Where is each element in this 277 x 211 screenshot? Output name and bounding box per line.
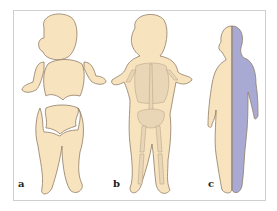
panel-c-blue-half xyxy=(232,26,258,193)
panel-a-left-arm xyxy=(22,62,44,92)
panel-a-right-arm xyxy=(84,62,106,84)
panel-a-figure xyxy=(22,14,106,194)
anatomy-illustration xyxy=(0,0,277,211)
panel-a-thorax xyxy=(44,60,85,101)
panel-c-figure xyxy=(208,26,258,193)
panel-label-b: b xyxy=(113,178,120,189)
panel-c-skin-half xyxy=(208,26,232,193)
panel-a-head xyxy=(39,14,77,60)
panel-label-a: a xyxy=(18,178,24,189)
panel-label-c: c xyxy=(208,178,214,189)
spine xyxy=(149,64,153,112)
panel-b-figure xyxy=(112,14,192,193)
panel-a-pelvis xyxy=(45,105,78,134)
